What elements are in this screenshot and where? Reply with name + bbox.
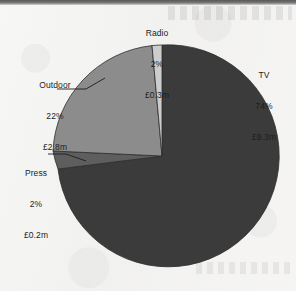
slice-label-radio-name: Radio [126, 28, 188, 38]
slice-label-tv-percent: 74% [236, 101, 292, 111]
slice-label-tv-amount: £9.3m [236, 132, 292, 142]
slice-label-outdoor-percent: 22% [20, 111, 90, 121]
slice-label-radio: Radio 2% £0.3m [126, 8, 188, 120]
slice-label-radio-amount: £0.3m [126, 90, 188, 100]
slice-label-press: Press 2% £0.2m [8, 148, 64, 260]
slice-label-tv: TV 74% £9.3m [236, 50, 292, 162]
slice-label-tv-name: TV [236, 70, 292, 80]
slice-label-press-name: Press [8, 168, 64, 178]
slice-label-press-amount: £0.2m [8, 230, 64, 240]
slice-label-radio-percent: 2% [126, 59, 188, 69]
slice-label-outdoor-name: Outdoor [20, 80, 90, 90]
slice-label-press-percent: 2% [8, 199, 64, 209]
pie-chart-page: Radio 2% £0.3m TV 74% £9.3m Outdoor 22% … [0, 0, 296, 291]
